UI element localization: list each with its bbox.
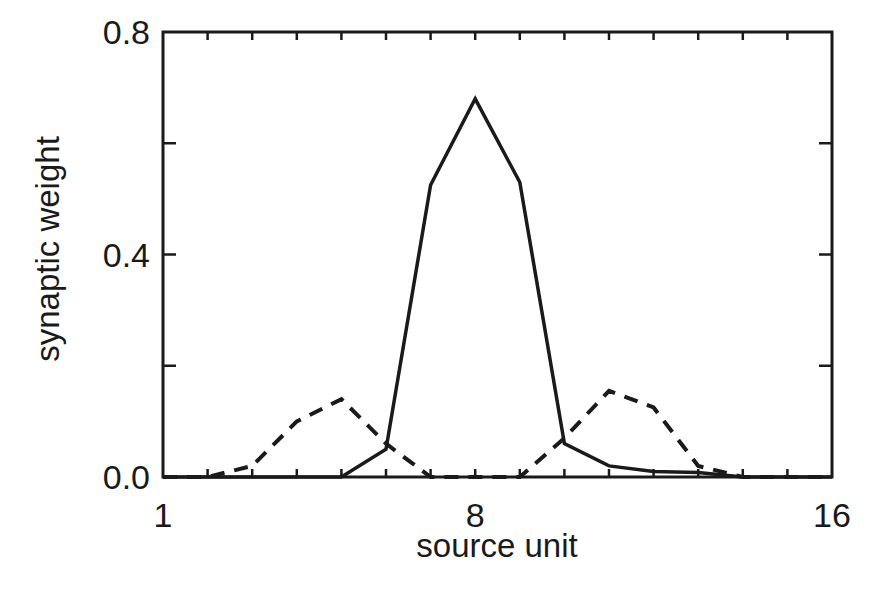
line-chart: 18160.00.40.8 source unit synaptic weigh… (0, 0, 874, 593)
x-axis-title: source unit (416, 527, 577, 564)
plot-border (163, 32, 832, 477)
data-series (163, 99, 832, 477)
x-tick-label: 1 (154, 496, 173, 534)
plot-frame (163, 32, 832, 477)
y-tick-label: 0.0 (103, 458, 150, 496)
tick-labels: 18160.00.40.8 (103, 13, 851, 534)
axis-ticks (163, 32, 832, 477)
x-tick-label: 16 (813, 496, 851, 534)
series-solid-line (163, 99, 832, 477)
y-tick-label: 0.4 (103, 236, 150, 274)
y-axis-title: synaptic weight (29, 136, 66, 362)
y-tick-label: 0.8 (103, 13, 150, 51)
series-dashed-line (163, 391, 832, 477)
